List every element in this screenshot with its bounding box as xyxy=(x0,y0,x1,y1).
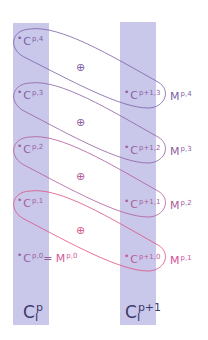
m-label-p1: Mp,1 xyxy=(170,255,192,266)
oplus-icon-2: ⊕ xyxy=(76,117,85,128)
equals-sign: = xyxy=(43,252,52,265)
oplus-icon-4: ⊕ xyxy=(76,225,85,236)
m-label-p4: Mp,4 xyxy=(170,91,192,102)
loops-layer xyxy=(0,0,208,340)
m-p0-label: Mp,0 xyxy=(56,252,78,265)
column-label-right: Cp+1I xyxy=(125,302,161,321)
m-label-p2: Mp,2 xyxy=(170,200,192,211)
node-c-p1-2: •Cp+1,2 xyxy=(124,145,160,156)
node-c-p4: •Cp,4 xyxy=(17,36,43,47)
m-label-p3: Mp,3 xyxy=(170,146,192,157)
node-c-p1-0: •Cp+1,0 xyxy=(124,254,160,265)
node-c-p1: •Cp,1 xyxy=(17,198,43,209)
node-c-p0: •Cp,0= Mp,0 xyxy=(17,253,77,264)
oplus-icon-1: ⊕ xyxy=(76,62,85,73)
node-c-p1-1: •Cp+1,1 xyxy=(124,199,160,210)
oplus-icon-3: ⊕ xyxy=(76,171,85,182)
node-c-p3: •Cp,3 xyxy=(17,90,43,101)
node-c-p1-3: •Cp+1,3 xyxy=(124,90,160,101)
node-c-p2: •Cp,2 xyxy=(17,144,43,155)
column-label-left: CpI xyxy=(23,302,43,321)
